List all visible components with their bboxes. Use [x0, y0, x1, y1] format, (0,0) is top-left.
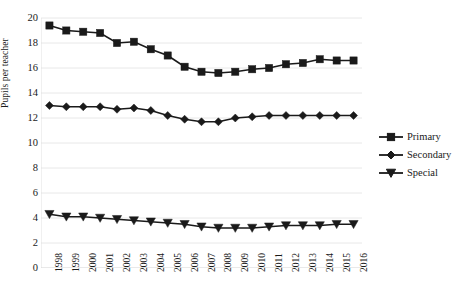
legend-label: Primary: [404, 131, 441, 143]
data-point: [80, 28, 87, 35]
x-tick-label: 2001: [105, 238, 116, 272]
data-point: [147, 46, 154, 53]
data-point: [181, 63, 188, 70]
data-point: [130, 104, 138, 112]
data-point: [333, 57, 340, 64]
data-point: [113, 105, 121, 113]
y-tick-label: 16: [16, 63, 38, 73]
data-point: [147, 107, 155, 115]
series-secondary: [45, 102, 357, 126]
legend-marker-square-icon: [378, 130, 404, 144]
x-tick-label: 2000: [88, 238, 99, 272]
x-tick-label: 2011: [274, 238, 285, 272]
x-tick-label: 2006: [190, 238, 201, 272]
series-special: [45, 210, 358, 232]
y-tick-label: 20: [16, 13, 38, 23]
x-axis-tick-labels: 1998199920002001200220032004200520062007…: [41, 268, 362, 308]
data-point: [249, 66, 256, 73]
y-tick-label: 14: [16, 88, 38, 98]
y-tick-label: 18: [16, 38, 38, 48]
chart-legend: PrimarySecondarySpecial: [378, 128, 466, 182]
x-tick-label: 2010: [257, 238, 268, 272]
data-point: [231, 114, 239, 122]
plot-area: [41, 10, 362, 268]
data-point: [215, 69, 222, 76]
plot-svg: [41, 10, 362, 268]
y-tick-label: 8: [16, 163, 38, 173]
data-point: [96, 103, 104, 111]
legend-item-special[interactable]: Special: [378, 164, 466, 182]
chart-figure: Pupils per teacher 02468101214161820 199…: [0, 0, 469, 308]
data-point: [164, 52, 171, 59]
y-tick-label: 6: [16, 188, 38, 198]
data-point: [232, 68, 239, 75]
x-tick-label: 2004: [156, 238, 167, 272]
x-tick-label: 2005: [173, 238, 184, 272]
legend-item-primary[interactable]: Primary: [378, 128, 466, 146]
data-series-layer: [45, 22, 358, 232]
y-tick-label: 10: [16, 138, 38, 148]
x-tick-label: 1999: [71, 238, 82, 272]
x-tick-label: 2009: [240, 238, 251, 272]
data-point: [198, 118, 206, 126]
x-tick-label: 2008: [223, 238, 234, 272]
data-point: [214, 118, 222, 126]
legend-marker-diamond-icon: [378, 148, 404, 162]
data-point: [282, 61, 289, 68]
data-point: [198, 68, 205, 75]
data-point: [299, 59, 306, 66]
legend-label: Special: [404, 167, 438, 179]
legend-label: Secondary: [404, 149, 451, 161]
legend-item-secondary[interactable]: Secondary: [378, 146, 466, 164]
series-line: [49, 26, 353, 74]
x-tick-label: 2007: [207, 238, 218, 272]
x-tick-label: 1998: [54, 238, 65, 272]
data-point: [265, 64, 272, 71]
data-point: [350, 57, 357, 64]
data-point: [45, 102, 53, 110]
x-tick-label: 2003: [139, 238, 150, 272]
x-tick-label: 2014: [325, 238, 336, 272]
data-point: [62, 103, 70, 111]
data-point: [181, 115, 189, 123]
y-tick-label: 12: [16, 113, 38, 123]
data-point: [46, 22, 53, 29]
y-tick-label: 4: [16, 213, 38, 223]
x-tick-label: 2013: [308, 238, 319, 272]
data-point: [248, 113, 256, 121]
data-point: [79, 103, 87, 111]
data-point: [316, 56, 323, 63]
y-tick-label: 0: [16, 263, 38, 273]
x-tick-label: 2015: [342, 238, 353, 272]
data-point: [113, 39, 120, 46]
x-tick-label: 2012: [291, 238, 302, 272]
y-tick-label: 2: [16, 238, 38, 248]
data-point: [63, 27, 70, 34]
data-point: [130, 38, 137, 45]
legend-marker-triangle-down-icon: [378, 166, 404, 180]
x-tick-label: 2016: [359, 238, 370, 272]
y-axis-tick-labels: 02468101214161820: [14, 0, 38, 308]
x-tick-label: 2002: [122, 238, 133, 272]
data-point: [97, 29, 104, 36]
